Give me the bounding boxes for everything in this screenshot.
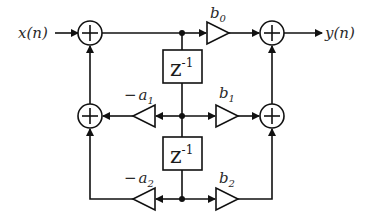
gain-a2-triangle [133, 188, 155, 210]
gain-b2-triangle [216, 188, 238, 210]
adder-left-top [78, 21, 102, 45]
gain-b0-label: b0 [210, 4, 227, 24]
branch-node-mid [179, 113, 185, 119]
branch-node-top [179, 30, 185, 36]
delay-block-2: z-1 [163, 137, 202, 170]
adder-left-mid [78, 104, 102, 128]
biquad-direct-form-ii-diagram: z-1 z-1 x(n) y(n) b0 −a1 b1 −a2 b2 [0, 0, 371, 221]
gain-b1-triangle [216, 105, 238, 127]
branch-node-bottom [179, 196, 185, 202]
adder-right-mid [260, 104, 284, 128]
output-label: y(n) [324, 24, 355, 42]
gain-b2-label: b2 [219, 169, 235, 189]
input-label: x(n) [18, 24, 48, 42]
gain-a1-label: −a1 [124, 86, 154, 106]
gain-b1-label: b1 [219, 84, 235, 104]
gain-a1-triangle [133, 105, 155, 127]
delay-block-1: z-1 [163, 50, 202, 83]
gain-a2-label: −a2 [124, 169, 154, 189]
gain-b0-triangle [207, 22, 229, 44]
adder-right-top [260, 21, 284, 45]
